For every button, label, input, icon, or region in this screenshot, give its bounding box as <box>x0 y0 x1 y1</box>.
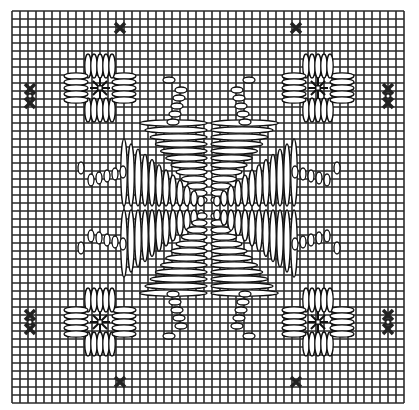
center-stitch <box>191 191 197 206</box>
center-stitch <box>270 210 276 262</box>
tip-stitch <box>112 236 118 248</box>
star-center <box>316 86 320 90</box>
center-stitch <box>181 234 207 240</box>
center-stitch <box>211 255 252 261</box>
double-cross-mark <box>25 310 35 334</box>
petal-stitch <box>327 54 333 78</box>
tip-stitch <box>292 166 298 178</box>
petal-stitch <box>330 97 354 103</box>
center-stitch <box>171 162 207 168</box>
petal-stitch <box>109 288 115 312</box>
center-stitch <box>221 210 227 225</box>
center-stitch <box>198 196 204 206</box>
double-cross-mark <box>383 310 393 334</box>
center-stitch <box>156 210 162 251</box>
center-stitch <box>166 255 207 261</box>
center-stitch <box>150 276 207 282</box>
center-stitch <box>284 144 290 206</box>
center-stitch <box>156 165 162 206</box>
tip-stitch <box>88 230 94 242</box>
center-stitch <box>155 141 207 147</box>
tip-stitch <box>169 111 181 117</box>
double-cross-mark <box>25 84 35 108</box>
center-stitch <box>135 210 141 267</box>
center-stitch <box>211 141 263 147</box>
center-stitch <box>142 210 148 262</box>
center-stitch <box>277 210 283 267</box>
star-center <box>316 320 320 324</box>
petal-stitch <box>64 97 88 103</box>
center-stitch <box>211 248 247 254</box>
center-stitch <box>211 176 237 182</box>
tip-stitch <box>235 103 247 109</box>
canvas-grid <box>12 11 404 403</box>
tip-stitch <box>308 234 314 246</box>
tip-stitch <box>112 168 118 180</box>
center-stitch <box>249 170 255 206</box>
center-stitch <box>211 148 257 154</box>
tip-stitch <box>308 170 314 182</box>
tip-stitch <box>239 291 251 297</box>
center-stitch <box>211 134 268 140</box>
center-stitch <box>192 220 207 226</box>
tip-stitch <box>120 166 126 178</box>
center-stitch <box>211 162 247 168</box>
petal-stitch <box>327 288 333 312</box>
center-stitch <box>197 213 207 219</box>
petal-stitch <box>330 331 354 337</box>
tip-stitch <box>78 242 84 254</box>
center-stitch <box>211 262 257 268</box>
tip-stitch <box>173 315 185 321</box>
petal-stitch <box>112 331 136 337</box>
tip-stitch <box>239 119 251 125</box>
center-stitch <box>270 154 276 206</box>
tip-stitch <box>243 333 255 339</box>
center-stitch <box>211 276 268 282</box>
tip-stitch <box>334 242 340 254</box>
center-stitch <box>211 283 273 289</box>
tip-stitch <box>334 162 340 174</box>
tip-stitch <box>316 232 322 244</box>
tip-stitch <box>324 230 330 242</box>
tip-stitch <box>175 323 187 329</box>
center-stitch <box>235 210 241 236</box>
center-stitch <box>170 175 176 206</box>
petal-stitch <box>282 331 306 337</box>
stitch-chart-svg <box>0 0 419 410</box>
tip-stitch <box>231 323 243 329</box>
tip-stitch <box>233 315 245 321</box>
tip-stitch <box>120 238 126 250</box>
tip-stitch <box>233 95 245 101</box>
center-stitch <box>211 169 242 175</box>
petal-stitch <box>109 54 115 78</box>
tip-stitch <box>237 299 249 305</box>
center-stitch <box>170 210 176 241</box>
center-stitch <box>263 160 269 206</box>
tip-stitch <box>104 234 110 246</box>
tip-stitch <box>324 174 330 186</box>
tip-stitch <box>163 333 175 339</box>
center-stitch <box>128 144 134 206</box>
center-stitch <box>211 234 237 240</box>
center-stitch <box>177 180 183 206</box>
tip-stitch <box>235 307 247 313</box>
tip-stitch <box>175 87 187 93</box>
center-stitch <box>149 160 155 206</box>
center-stitch <box>128 210 134 272</box>
center-stitch <box>214 210 220 220</box>
center-stitch <box>149 210 155 256</box>
center-stitch <box>235 180 241 206</box>
center-stitch <box>221 191 227 206</box>
tip-stitch <box>292 238 298 250</box>
center-stitch <box>145 127 207 133</box>
center-stitch <box>166 155 207 161</box>
center-stitch <box>228 210 234 230</box>
stitch-diagram <box>0 0 419 410</box>
center-stitch <box>161 148 207 154</box>
tip-stitch <box>96 172 102 184</box>
center-stitch <box>163 210 169 246</box>
tip-stitch <box>231 87 243 93</box>
center-stitch <box>256 165 262 206</box>
center-stitch <box>176 169 207 175</box>
petal-stitch <box>112 97 136 103</box>
